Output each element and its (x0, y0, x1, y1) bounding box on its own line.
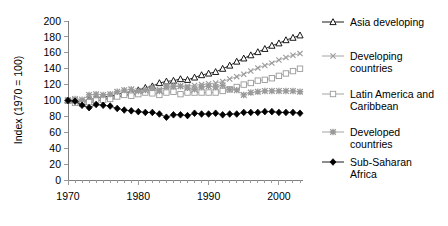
series-marker (241, 55, 247, 61)
series-marker (220, 88, 225, 93)
x-axis: 1970198019902000 (56, 180, 303, 202)
legend-label: Developing (350, 50, 403, 62)
series-marker (205, 83, 211, 89)
series-marker (163, 83, 169, 89)
series-marker (149, 109, 155, 116)
series-marker (248, 68, 253, 73)
series-marker (121, 107, 127, 114)
series-marker (114, 105, 120, 112)
series-marker (100, 92, 106, 98)
series-marker (171, 89, 176, 94)
y-axis-tick-label: 180 (43, 31, 61, 43)
series-marker (248, 109, 254, 116)
y-axis-tick-label: 20 (49, 158, 61, 170)
data-series-group (65, 32, 303, 120)
series-marker (129, 93, 134, 98)
series-marker (121, 87, 127, 93)
series-marker (206, 111, 212, 118)
legend-item-developed-countries[interactable]: Developedcountries (322, 126, 400, 151)
legend-label: countries (350, 62, 393, 74)
series-marker (262, 108, 268, 115)
series-marker (227, 76, 232, 81)
series-marker (255, 65, 260, 70)
series-marker (213, 90, 218, 95)
x-axis-tick-label: 1980 (127, 190, 151, 202)
series-marker (220, 112, 226, 119)
series-marker (297, 66, 302, 71)
y-axis-tick-label: 80 (49, 110, 61, 122)
legend-label: countries (350, 138, 393, 150)
series-marker (262, 77, 267, 82)
series-marker (206, 90, 211, 95)
series-marker (170, 112, 176, 119)
legend-label: Sub-Saharan (350, 156, 412, 168)
series-marker (255, 109, 261, 116)
y-axis-tick-label: 40 (49, 142, 61, 154)
series-marker (290, 109, 296, 116)
legend-item-asia-developing[interactable]: Asia developing (322, 16, 424, 28)
chart-legend: Asia developingDevelopingcountriesLatin … (322, 16, 434, 181)
series-marker (213, 69, 219, 75)
series-marker (276, 109, 282, 116)
series-marker (128, 86, 134, 92)
series-marker (297, 32, 303, 38)
legend-label: Developed (350, 126, 400, 138)
y-axis-tick-label: 140 (43, 62, 61, 74)
series-marker (142, 87, 148, 93)
y-axis-tick-label: 60 (49, 126, 61, 138)
series-marker (297, 89, 303, 95)
y-axis-tick-label: 160 (43, 46, 61, 58)
series-marker (241, 82, 246, 87)
y-axis-title: Index (1970 = 100) (12, 56, 24, 144)
series-marker (276, 40, 282, 46)
series-marker (177, 76, 183, 82)
series-marker (255, 49, 261, 55)
series-marker (227, 62, 233, 68)
series-marker (213, 110, 219, 117)
series-marker (283, 109, 289, 116)
series-marker (283, 55, 288, 60)
series-marker (241, 109, 247, 116)
series-marker (100, 102, 106, 109)
series-marker (262, 63, 267, 68)
series-marker (248, 52, 254, 58)
series-marker (86, 92, 92, 98)
legend-marker (330, 91, 335, 96)
legend-item-latin-america-and-caribbean[interactable]: Latin America andCaribbean (322, 88, 434, 113)
series-marker (283, 71, 288, 76)
series-marker (184, 85, 190, 91)
y-axis-tick-label: 0 (55, 174, 61, 186)
series-marker (234, 74, 239, 79)
chart-canvas: 200180160140120100806040200 197019801990… (0, 0, 448, 226)
series-marker (107, 91, 113, 97)
legend-label: Latin America and (350, 88, 434, 100)
legend-marker (330, 129, 336, 135)
series-marker (234, 111, 240, 118)
series-marker (290, 88, 296, 94)
series-marker (164, 90, 169, 95)
series-marker (234, 87, 240, 93)
series-marker (150, 91, 155, 96)
series-marker (185, 112, 191, 119)
series-marker (177, 83, 183, 89)
series-marker (269, 108, 275, 115)
x-axis-tick-label: 1970 (56, 190, 80, 202)
series-marker (234, 58, 240, 64)
series-marker (262, 46, 268, 52)
series-marker (170, 83, 176, 89)
series-marker (241, 72, 246, 77)
series-marker (86, 104, 92, 111)
series-marker (198, 84, 204, 90)
series-marker (255, 89, 261, 95)
series-marker (199, 90, 204, 95)
legend-item-developing-countries[interactable]: Developingcountries (322, 50, 403, 75)
series-marker (248, 80, 253, 85)
legend-label: Caribbean (350, 100, 399, 112)
legend-item-sub-saharan-africa[interactable]: Sub-SaharanAfrica (322, 156, 412, 181)
series-marker (142, 109, 148, 116)
series-marker (262, 88, 268, 94)
legend-label: Africa (350, 168, 377, 180)
series-marker (220, 65, 226, 71)
series-marker (241, 92, 247, 98)
series-marker (276, 73, 281, 78)
